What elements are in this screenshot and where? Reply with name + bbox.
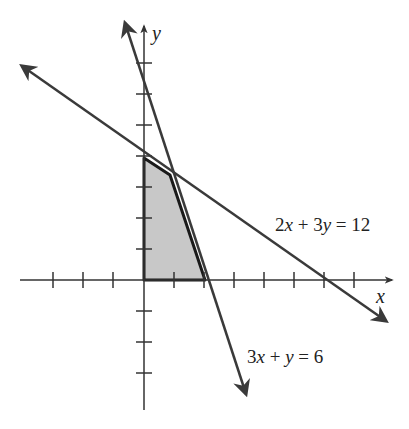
equation-label-2x-3y-12: 2x + 3y = 12 <box>275 214 370 235</box>
equation-label-3x-y-6: 3x + y = 6 <box>247 346 323 367</box>
x-axis-label: x <box>375 285 385 307</box>
linear-programming-graph: y x 2x + 3y = 12 3x + y = 6 <box>0 0 409 429</box>
y-axis-label: y <box>150 22 161 45</box>
